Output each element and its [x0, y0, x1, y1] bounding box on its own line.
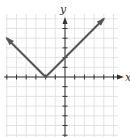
- y-axis-label: y: [59, 3, 67, 16]
- x-axis-label: x: [125, 71, 130, 84]
- grid-lines: [6, 14, 118, 137]
- axis-ticks: [7, 29, 114, 136]
- x-axis-arrow-icon: [117, 75, 124, 80]
- y-axis-arrow-icon: [63, 17, 68, 24]
- coordinate-plane: x y: [0, 0, 130, 137]
- axes: [4, 17, 124, 137]
